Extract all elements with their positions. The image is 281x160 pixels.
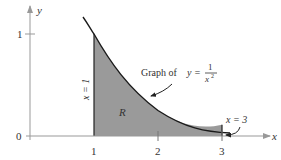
diagram-canvas: y x 1 0 1 2 3 x = 1 R Graph of y = 1 x 2… [0, 0, 281, 160]
x-axis-label: x [271, 130, 277, 142]
x-tick-label-1: 1 [91, 145, 97, 157]
left-bound-label: x = 1 [80, 79, 91, 101]
right-bound-arrow [226, 127, 240, 135]
right-bound-label: x = 3 [225, 114, 247, 125]
graph-label-num: 1 [208, 62, 213, 72]
x-tick-label-2: 2 [155, 145, 161, 157]
graph-label-arrow [151, 84, 172, 96]
y-tick-label-1: 1 [17, 28, 23, 40]
x-tick-label-3: 3 [219, 145, 225, 157]
graph-label-den: x [204, 74, 209, 84]
graph-label-lhs: y = [186, 67, 201, 78]
graph-label-exp: 2 [211, 73, 214, 79]
y-axis-label: y [36, 4, 42, 16]
region-label: R [118, 106, 126, 118]
y-tick-label-0: 0 [16, 130, 22, 142]
region-r [94, 34, 222, 136]
graph-label-prefix: Graph of [141, 67, 177, 78]
